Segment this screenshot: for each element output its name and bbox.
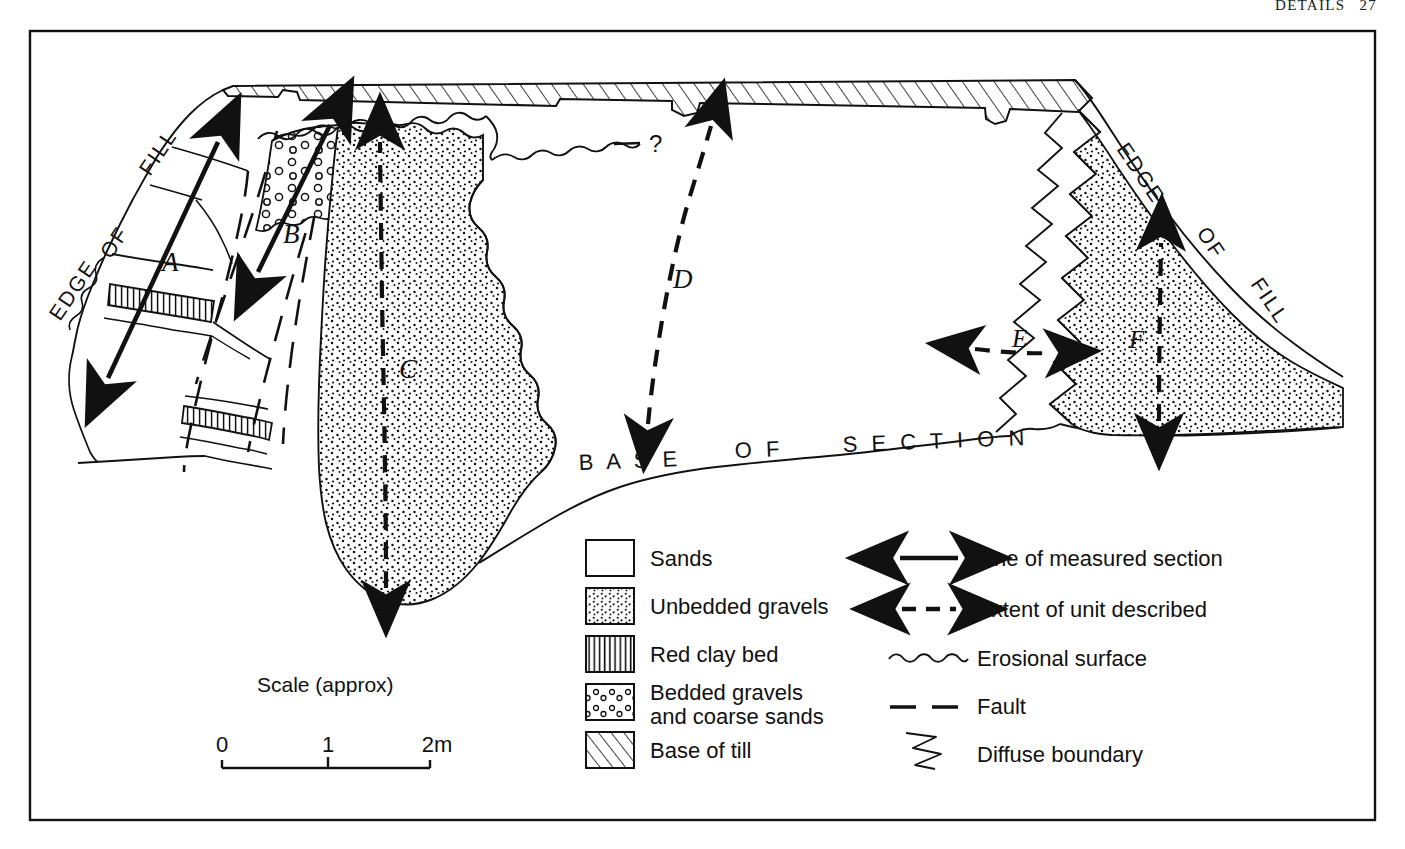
legend-label-fault: Fault xyxy=(977,694,1026,719)
svg-text:B A S E: B A S E xyxy=(578,446,681,475)
label-B: B xyxy=(283,219,300,249)
legend-label-red-clay-bed: Red clay bed xyxy=(650,642,778,667)
sands-swatch xyxy=(586,540,634,576)
scale-tick-1: 1 xyxy=(322,732,334,757)
legend-label-unbedded-gravels: Unbedded gravels xyxy=(650,594,829,619)
base-of-till-swatch xyxy=(586,732,634,768)
scale-tick-0: 0 xyxy=(216,732,228,757)
label-A: A xyxy=(160,247,179,277)
bedded-gravels-swatch xyxy=(586,684,634,720)
label-E: E xyxy=(1011,325,1027,352)
scale-caption: Scale (approx) xyxy=(257,673,394,696)
legend-label-diffuse-boundary: Diffuse boundary xyxy=(977,742,1143,767)
legend-label-bedded-gravels: Bedded gravels xyxy=(650,680,803,705)
scale-tick-2: 2m xyxy=(422,732,453,757)
legend-label-measured-section: Line of measured section xyxy=(977,546,1223,571)
figure-stage: ? A B C D E F FIL xyxy=(0,0,1405,849)
label-D: D xyxy=(672,264,693,294)
unbedded-gravels-swatch xyxy=(586,588,634,624)
red-clay-bed-swatch xyxy=(586,636,634,672)
legend-label-extent-of-unit: Extent of unit described xyxy=(977,597,1207,622)
legend-label-bedded-gravels-2: and coarse sands xyxy=(650,704,824,729)
legend-label-base-of-till: Base of till xyxy=(650,738,752,763)
label-F: F xyxy=(1128,326,1145,353)
svg-text:O F: O F xyxy=(734,436,784,463)
query-label: ? xyxy=(649,130,662,157)
legend-label-erosional-surface: Erosional surface xyxy=(977,646,1147,671)
label-C: C xyxy=(399,354,418,384)
legend-label-sands: Sands xyxy=(650,546,712,571)
